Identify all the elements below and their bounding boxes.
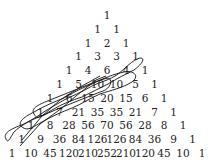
diagonal-loop-2: [20, 72, 136, 129]
pascal-triangle-diagram: 1111211331146411510105116152015611721353…: [0, 0, 215, 167]
diagonal-loops: [0, 0, 215, 167]
